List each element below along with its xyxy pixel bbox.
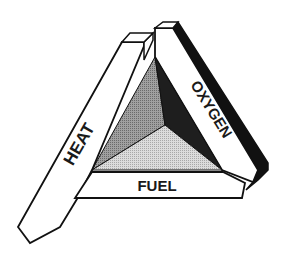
fire-triangle-diagram: HEAT OXYGEN FUEL xyxy=(0,0,281,260)
oxygen-bar-top xyxy=(155,22,178,28)
fuel-label: FUEL xyxy=(137,177,176,194)
fire-triangle-svg: HEAT OXYGEN FUEL xyxy=(0,0,281,260)
